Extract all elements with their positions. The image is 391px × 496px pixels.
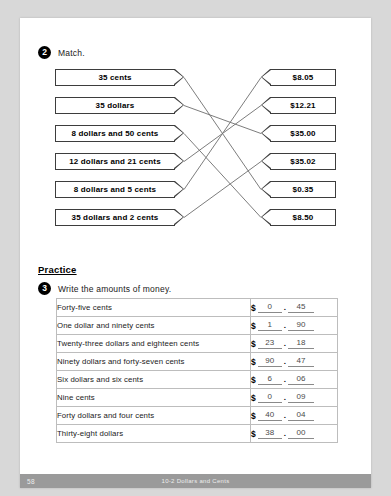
match-right-label-0: $8.05 xyxy=(293,73,314,82)
exercise-2-instruction: Match. xyxy=(58,48,85,58)
cents-blank-6[interactable]: 04 xyxy=(288,410,314,421)
match-connector-0 xyxy=(184,78,261,190)
match-right-label-1: $12.21 xyxy=(290,101,315,110)
amount-phrase-0: Forty-five cents xyxy=(57,299,251,317)
match-left-label-5: 35 dollars and 2 cents xyxy=(72,213,159,222)
match-right-box-4[interactable]: $0.35 xyxy=(270,181,336,198)
match-left-arrow-fill-5 xyxy=(174,210,183,224)
match-right-box-3[interactable]: $35.02 xyxy=(270,153,336,170)
table-row: Thirty-eight dollars$38.00 xyxy=(57,425,338,443)
cents-blank-2[interactable]: 18 xyxy=(288,338,314,349)
table-row: One dollar and ninety cents$1.90 xyxy=(57,317,338,335)
decimal-point-6: . xyxy=(283,411,287,421)
exercise-2-header: 2 Match. xyxy=(38,46,85,59)
amount-answer-cell-6[interactable]: $40.04 xyxy=(251,407,338,425)
table-row: Six dollars and six cents$6.06 xyxy=(57,371,338,389)
amount-phrase-3: Ninety dollars and forty-seven cents xyxy=(57,353,251,371)
decimal-point-1: . xyxy=(283,321,287,331)
amount-answer-cell-1[interactable]: $1.90 xyxy=(251,317,338,335)
decimal-point-3: . xyxy=(283,357,287,367)
match-right-arrow-fill-0 xyxy=(262,70,271,84)
match-connector-1 xyxy=(184,106,261,134)
exercise-3-number: 3 xyxy=(38,282,51,295)
match-left-label-4: 8 dollars and 5 cents xyxy=(74,185,156,194)
dollars-blank-2[interactable]: 23 xyxy=(258,338,282,349)
amount-answer-cell-2[interactable]: $23.18 xyxy=(251,335,338,353)
cents-blank-3[interactable]: 47 xyxy=(288,356,314,367)
cents-blank-0[interactable]: 45 xyxy=(288,302,314,313)
match-left-arrow-fill-2 xyxy=(174,126,183,140)
match-connector-4 xyxy=(184,78,261,190)
amount-answer-cell-7[interactable]: $38.00 xyxy=(251,425,338,443)
table-row: Forty-five cents$0.45 xyxy=(57,299,338,317)
amount-answer-cell-5[interactable]: $0.09 xyxy=(251,389,338,407)
match-left-box-4[interactable]: 8 dollars and 5 cents xyxy=(55,181,175,198)
match-connector-5 xyxy=(184,162,261,218)
dollar-sign-5: $ xyxy=(251,393,256,403)
decimal-point-5: . xyxy=(283,393,287,403)
dollars-blank-7[interactable]: 38 xyxy=(258,428,282,439)
dollars-blank-3[interactable]: 90 xyxy=(258,356,282,367)
dollars-blank-5[interactable]: 0 xyxy=(258,392,282,403)
match-left-arrow-fill-3 xyxy=(174,154,183,168)
dollars-blank-6[interactable]: 40 xyxy=(258,410,282,421)
cents-blank-5[interactable]: 09 xyxy=(288,392,314,403)
exercise-3-instruction: Write the amounts of money. xyxy=(58,284,171,294)
amount-phrase-7: Thirty-eight dollars xyxy=(57,425,251,443)
dollar-sign-0: $ xyxy=(251,303,256,313)
cents-blank-4[interactable]: 06 xyxy=(288,374,314,385)
amount-phrase-6: Forty dollars and four cents xyxy=(57,407,251,425)
match-right-box-5[interactable]: $8.50 xyxy=(270,209,336,226)
match-left-label-1: 35 dollars xyxy=(96,101,135,110)
decimal-point-2: . xyxy=(283,339,287,349)
match-right-label-4: $0.35 xyxy=(293,185,314,194)
match-right-box-1[interactable]: $12.21 xyxy=(270,97,336,114)
amount-phrase-1: One dollar and ninety cents xyxy=(57,317,251,335)
table-row: Nine cents$0.09 xyxy=(57,389,338,407)
match-left-arrow-fill-4 xyxy=(174,182,183,196)
match-left-box-2[interactable]: 8 dollars and 50 cents xyxy=(55,125,175,142)
dollar-sign-3: $ xyxy=(251,357,256,367)
money-amounts-table: Forty-five cents$0.45One dollar and nine… xyxy=(56,298,338,443)
match-left-arrow-fill-0 xyxy=(174,70,183,84)
amount-answer-cell-4[interactable]: $6.06 xyxy=(251,371,338,389)
table-row: Twenty-three dollars and eighteen cents$… xyxy=(57,335,338,353)
practice-heading: Practice xyxy=(38,264,77,275)
cents-blank-7[interactable]: 00 xyxy=(288,428,314,439)
decimal-point-0: . xyxy=(283,303,287,313)
match-right-box-0[interactable]: $8.05 xyxy=(270,69,336,86)
dollars-blank-1[interactable]: 1 xyxy=(258,320,282,331)
match-left-box-5[interactable]: 35 dollars and 2 cents xyxy=(55,209,175,226)
match-connector-2 xyxy=(184,134,261,218)
match-left-label-3: 12 dollars and 21 cents xyxy=(69,157,161,166)
match-left-box-0[interactable]: 35 cents xyxy=(55,69,175,86)
worksheet-page: 2 Match. 35 cents35 dollars8 dollars and… xyxy=(20,18,371,488)
match-right-arrow-fill-4 xyxy=(262,182,271,196)
match-connector-3 xyxy=(184,106,261,162)
dollar-sign-4: $ xyxy=(251,375,256,385)
page-footer: 58 10-2 Dollars and Cents xyxy=(20,474,371,488)
cents-blank-1[interactable]: 90 xyxy=(288,320,314,331)
match-right-arrow-fill-5 xyxy=(262,210,271,224)
amount-phrase-2: Twenty-three dollars and eighteen cents xyxy=(57,335,251,353)
dollar-sign-7: $ xyxy=(251,429,256,439)
decimal-point-4: . xyxy=(283,375,287,385)
table-row: Forty dollars and four cents$40.04 xyxy=(57,407,338,425)
amount-answer-cell-0[interactable]: $0.45 xyxy=(251,299,338,317)
match-left-box-1[interactable]: 35 dollars xyxy=(55,97,175,114)
amount-answer-cell-3[interactable]: $90.47 xyxy=(251,353,338,371)
amount-phrase-5: Nine cents xyxy=(57,389,251,407)
footer-lesson-title: 10-2 Dollars and Cents xyxy=(20,478,371,484)
exercise-3-header: 3 Write the amounts of money. xyxy=(38,282,171,295)
match-right-label-3: $35.02 xyxy=(290,157,315,166)
match-left-box-3[interactable]: 12 dollars and 21 cents xyxy=(55,153,175,170)
dollars-blank-0[interactable]: 0 xyxy=(258,302,282,313)
dollar-sign-6: $ xyxy=(251,411,256,421)
match-left-label-0: 35 cents xyxy=(98,73,131,82)
match-right-box-2[interactable]: $35.00 xyxy=(270,125,336,142)
match-right-arrow-fill-3 xyxy=(262,154,271,168)
dollars-blank-4[interactable]: 6 xyxy=(258,374,282,385)
match-right-arrow-fill-1 xyxy=(262,98,271,112)
match-left-label-2: 8 dollars and 50 cents xyxy=(72,129,159,138)
dollar-sign-2: $ xyxy=(251,339,256,349)
